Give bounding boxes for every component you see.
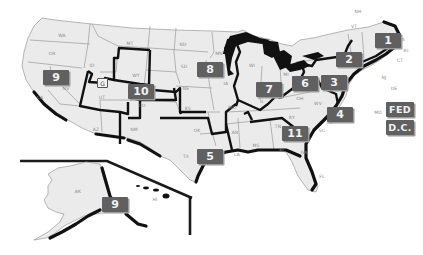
state-label-nh: NH [354, 9, 361, 14]
state-label-ct: CT [397, 58, 403, 63]
region-badge-label: FED [389, 104, 411, 115]
state-label-ca: CA [37, 95, 44, 100]
us-region-map: WA OR CA NV ID MT WY UT AZ CO NM ND SD N… [0, 0, 423, 255]
state-label-al: AL [279, 148, 285, 153]
state-label-ak: AK [75, 189, 81, 194]
region-badge-label: 1 [384, 34, 392, 47]
region-badge-3[interactable]: 3 [321, 75, 347, 90]
state-label-la: LA [234, 152, 240, 157]
alaska-panhandle [126, 214, 146, 226]
utah-marker-box: G [97, 78, 108, 88]
state-label-nj: NJ [381, 75, 386, 80]
state-label-mn: MN [215, 51, 223, 56]
state-label-az: AZ [93, 127, 100, 132]
state-label-oh: OH [296, 96, 303, 101]
region-badge-9[interactable]: 9 [43, 70, 69, 85]
region-badge-label: 6 [301, 77, 309, 90]
region-badge-label: 10 [133, 85, 148, 98]
state-label-ri: RI [404, 48, 409, 53]
state-label-id: ID [89, 63, 94, 68]
region-badge-label: D.C. [388, 122, 411, 133]
state-label-ga: GA [301, 150, 308, 155]
state-label-hi: HI [152, 197, 157, 202]
state-label-nm: NM [130, 127, 138, 132]
region-badge-fed[interactable]: FED [386, 102, 414, 117]
region-badge-4[interactable]: 4 [327, 107, 353, 122]
region-badge-label: 11 [287, 127, 302, 140]
state-label-nv: NV [63, 86, 70, 91]
region-badge-9-alaska[interactable]: 9 [102, 197, 128, 212]
region-badge-10[interactable]: 10 [128, 84, 154, 99]
region-badge-label: 5 [206, 150, 214, 163]
region-badge-label: 2 [345, 53, 353, 66]
state-label-ms: MS [252, 143, 259, 148]
state-label-mi: MI [283, 72, 289, 77]
state-label-nd: ND [179, 42, 186, 47]
region-badge-label: 9 [52, 71, 60, 84]
region-badge-2[interactable]: 2 [336, 52, 362, 67]
state-label-ut: UT [99, 95, 105, 100]
region-badge-7[interactable]: 7 [256, 82, 282, 97]
state-label-sd: SD [181, 64, 188, 69]
region-badge-label: 4 [336, 108, 344, 121]
state-label-wy: WY [132, 73, 140, 78]
state-label-fl: FL [319, 174, 325, 179]
state-label-tn: TN [275, 124, 282, 129]
state-label-sc: SC [319, 128, 325, 133]
state-label-ky: KY [289, 115, 295, 120]
region-badge-label: 8 [206, 63, 214, 76]
region-badge-11[interactable]: 11 [282, 126, 308, 141]
region-badge-dc[interactable]: D.C. [386, 120, 414, 135]
state-label-ks: KS [185, 106, 191, 111]
state-label-de: DE [391, 86, 398, 91]
region-badge-label: 3 [330, 76, 338, 89]
state-label-wa: WA [58, 33, 66, 38]
state-label-ia: IA [224, 81, 229, 86]
state-label-ok: OK [194, 128, 201, 133]
state-label-mo: MO [228, 105, 236, 110]
utah-marker-label: G [100, 80, 105, 87]
state-label-il: IL [260, 99, 264, 104]
state-label-tx: TX [183, 154, 189, 159]
region-badge-label: 9 [111, 198, 119, 211]
state-label-wi: WI [249, 63, 255, 68]
region-badge-6[interactable]: 6 [292, 76, 318, 91]
state-label-md: MD [374, 110, 382, 115]
region-badge-label: 7 [265, 83, 273, 96]
region-badge-8[interactable]: 8 [197, 62, 223, 77]
state-label-mt: MT [126, 41, 133, 46]
region-badge-5[interactable]: 5 [197, 149, 223, 164]
state-label-ne: NE [183, 86, 190, 91]
state-label-vt: VT [351, 24, 357, 29]
state-label-ar: AR [232, 130, 239, 135]
state-label-co: CO [138, 103, 145, 108]
state-label-or: OR [48, 51, 55, 56]
state-label-wv: WV [314, 101, 322, 106]
map-canvas [0, 0, 423, 255]
region-badge-1[interactable]: 1 [375, 33, 401, 48]
